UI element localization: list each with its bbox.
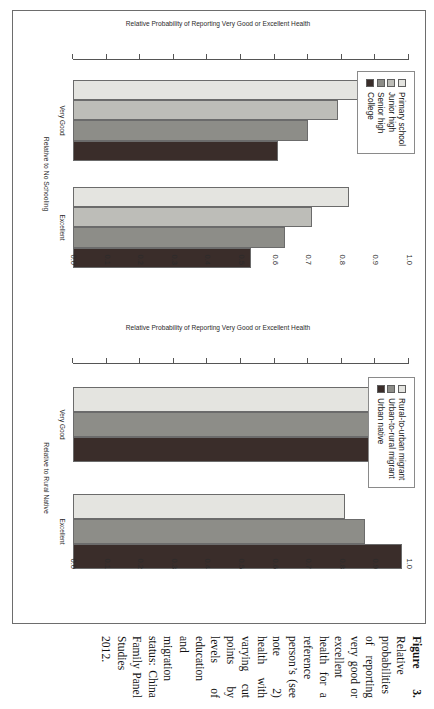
y-axis-tick-label: 0.3 xyxy=(169,254,178,265)
y-axis-tick xyxy=(274,358,275,363)
y-axis-tick-label: 0.2 xyxy=(136,254,145,265)
y-axis-tick xyxy=(341,54,342,59)
legend-item: Rural-to-urban migrant xyxy=(398,385,407,480)
legend-item-label: Senior high xyxy=(377,92,386,133)
legend-item-label: Urban-to-rural migrant xyxy=(387,398,396,479)
y-axis-tick xyxy=(72,54,73,59)
legend-item-label: Rural-to-urban migrant xyxy=(398,398,407,480)
legend-item: College xyxy=(366,79,375,146)
figure-caption-text: Relative probabilities of reporting very… xyxy=(99,636,407,698)
bar-senior-high xyxy=(73,227,285,247)
bar-primary-school xyxy=(73,80,359,100)
y-axis-tick xyxy=(206,54,207,59)
legend-swatch-icon xyxy=(388,385,396,393)
figure-frame: Relative Probability of Reporting Very G… xyxy=(12,10,426,624)
y-axis-tick xyxy=(274,54,275,59)
y-axis-tick xyxy=(139,358,140,363)
y-axis-tick-label: 0.5 xyxy=(237,254,246,265)
legend-education: Primary schoolJunior highSenior highColl… xyxy=(358,71,416,154)
y-axis-tick-label: 0.7 xyxy=(304,558,313,569)
y-axis-tick-label: 0.1 xyxy=(102,254,111,265)
y-axis-tick-label: 0.4 xyxy=(203,558,212,569)
y-axis-tick xyxy=(408,358,409,363)
legend-item: Primary school xyxy=(398,79,407,146)
legend-item-label: Urban native xyxy=(377,398,386,444)
y-axis-tick-label: 0.9 xyxy=(371,254,380,265)
figure-page: Relative Probability of Reporting Very G… xyxy=(0,0,434,709)
chart-panel-migration: Relative Probability of Reporting Very G… xyxy=(21,319,415,619)
legend-item: Junior high xyxy=(387,79,396,146)
y-axis-tick-label: 0.0 xyxy=(69,558,78,569)
legend-item-label: Primary school xyxy=(398,92,407,146)
bar-rural-to-urban-migrant xyxy=(73,494,345,519)
legend-item: Senior high xyxy=(377,79,386,146)
legend-item: Urban-to-rural migrant xyxy=(387,385,396,480)
bar-group-label: Excellent xyxy=(59,187,66,268)
y-axis-tick xyxy=(374,358,375,363)
y-axis-tick xyxy=(106,358,107,363)
y-axis-tick-label: 0.6 xyxy=(270,254,279,265)
y-axis-tick-label: 0.0 xyxy=(69,254,78,265)
legend-swatch-icon xyxy=(388,79,396,87)
legend-swatch-icon xyxy=(377,385,385,393)
y-axis-tick xyxy=(408,54,409,59)
bar-urban-native xyxy=(73,437,406,462)
y-axis-tick xyxy=(307,358,308,363)
y-axis-tick xyxy=(341,358,342,363)
bar-junior-high xyxy=(73,100,338,120)
y-axis-tick xyxy=(307,54,308,59)
bar-college xyxy=(73,141,278,161)
y-axis-tick-label: 0.7 xyxy=(304,254,313,265)
y-axis-tick-label: 0.3 xyxy=(169,558,178,569)
y-axis-tick xyxy=(72,358,73,363)
legend-swatch-icon xyxy=(377,79,385,87)
bar-group-label: Excellent xyxy=(59,494,66,569)
y-axis-tick xyxy=(106,54,107,59)
y-axis-tick-label: 0.5 xyxy=(237,558,246,569)
y-axis-tick-label: 0.6 xyxy=(270,558,279,569)
y-axis-title-education: Relative Probability of Reporting Very G… xyxy=(126,20,310,27)
y-axis-tick-label: 1.0 xyxy=(405,558,414,569)
chart-panel-education: Relative Probability of Reporting Very G… xyxy=(21,15,415,315)
y-axis-tick-label: 0.1 xyxy=(102,558,111,569)
bar-junior-high xyxy=(73,207,312,227)
y-axis-tick-label: 0.2 xyxy=(136,558,145,569)
y-axis-tick xyxy=(139,54,140,59)
y-axis-tick xyxy=(240,358,241,363)
y-axis-tick xyxy=(240,54,241,59)
y-axis-migration xyxy=(73,363,409,364)
legend-swatch-icon xyxy=(398,385,406,393)
y-axis-tick-label: 0.9 xyxy=(371,558,380,569)
x-axis-title-migration: Relative to Rural Native xyxy=(43,371,50,585)
y-axis-tick-label: 0.8 xyxy=(337,558,346,569)
bar-group-label: Very Good xyxy=(59,387,66,462)
legend-item-label: College xyxy=(366,92,375,120)
y-axis-tick-label: 0.4 xyxy=(203,254,212,265)
figure-number: Figure 3. xyxy=(410,636,423,698)
y-axis-tick-label: 1.0 xyxy=(405,254,414,265)
y-axis-tick xyxy=(173,358,174,363)
bar-senior-high xyxy=(73,120,308,140)
bar-urban-to-rural-migrant xyxy=(73,412,402,437)
rotated-figure-stage: Relative Probability of Reporting Very G… xyxy=(0,0,434,709)
figure-caption: Figure 3. Relative probabilities of repo… xyxy=(12,636,424,698)
legend-migration: Rural-to-urban migrantUrban-to-rural mig… xyxy=(368,377,415,488)
x-axis-title-education: Relative to No Schooling xyxy=(43,67,50,281)
bar-primary-school xyxy=(73,187,349,207)
bar-group: Very Good xyxy=(73,387,409,462)
legend-item: Urban native xyxy=(377,385,386,480)
y-axis-tick xyxy=(374,54,375,59)
bar-group-label: Very Good xyxy=(59,80,66,161)
legend-swatch-icon xyxy=(398,79,406,87)
y-axis-education xyxy=(73,59,409,60)
y-axis-tick xyxy=(173,54,174,59)
plot-area-migration: Very GoodExcellent xyxy=(73,371,409,585)
bar-college xyxy=(73,248,251,268)
legend-item-label: Junior high xyxy=(387,92,396,132)
y-axis-tick xyxy=(206,358,207,363)
bar-urban-to-rural-migrant xyxy=(73,519,365,544)
y-axis-title-migration: Relative Probability of Reporting Very G… xyxy=(126,324,310,331)
y-axis-tick-label: 0.8 xyxy=(337,254,346,265)
bar-rural-to-urban-migrant xyxy=(73,387,399,412)
legend-swatch-icon xyxy=(367,79,375,87)
